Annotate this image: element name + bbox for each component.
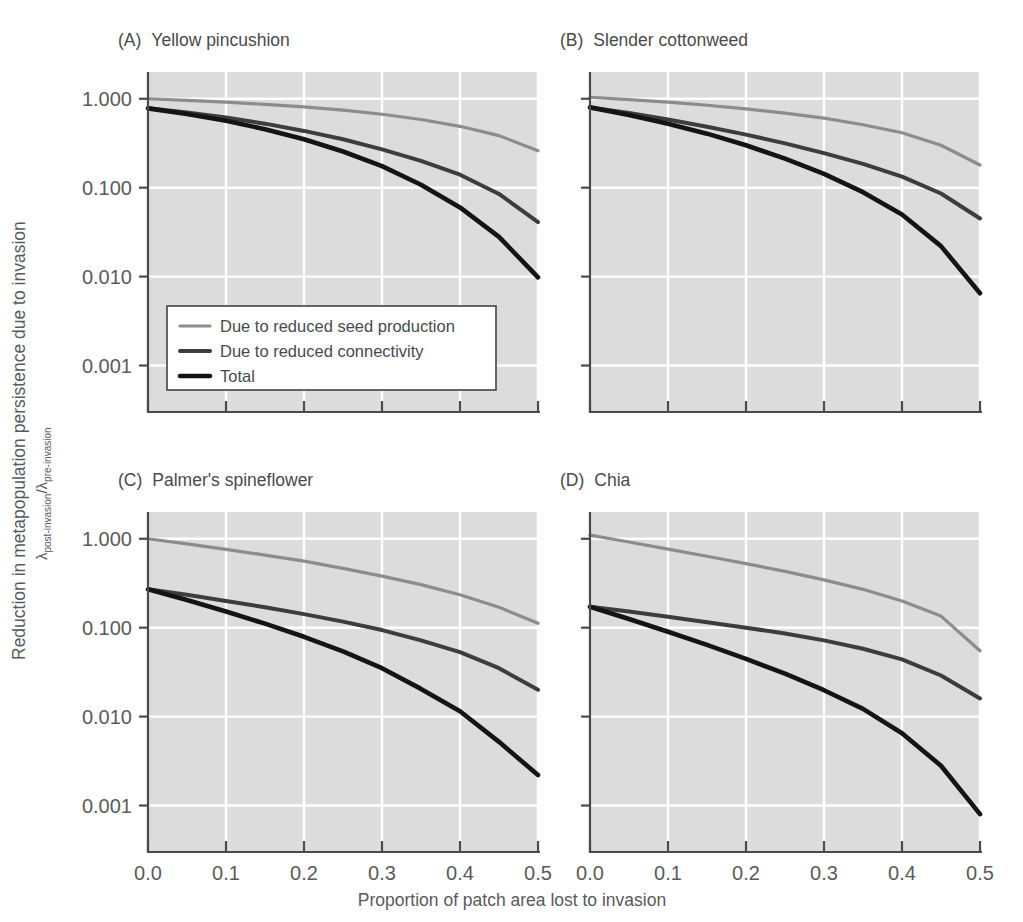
legend-label: Due to reduced connectivity <box>220 342 424 360</box>
x-tick-label: 0.3 <box>368 862 396 884</box>
legend-label: Due to reduced seed production <box>220 317 455 335</box>
x-tick-label: 0.0 <box>576 862 604 884</box>
panel-b: (B)Slender cottonweed <box>560 30 982 412</box>
plot-background <box>590 512 980 852</box>
figure-root: Reduction in metapopulation persistence … <box>0 0 1023 922</box>
y-axis-lambda-post: λpost-invasion/λpre-invasion <box>33 427 53 560</box>
plot-background <box>590 72 980 412</box>
x-tick-label: 0.2 <box>290 862 318 884</box>
x-axis-title: Proportion of patch area lost to invasio… <box>358 890 666 910</box>
x-tick-label: 0.1 <box>212 862 240 884</box>
x-tick-label: 0.1 <box>654 862 682 884</box>
x-tick-label: 0.2 <box>732 862 760 884</box>
x-tick-label: 0.0 <box>134 862 162 884</box>
y-tick-label: 0.001 <box>82 795 132 817</box>
panel-d: (D)Chia0.00.10.20.30.40.5 <box>560 470 994 884</box>
y-tick-label: 1.000 <box>82 528 132 550</box>
y-tick-label: 0.010 <box>82 706 132 728</box>
panel-title-a: (A)Yellow pincushion <box>118 30 290 50</box>
y-tick-label: 0.001 <box>82 355 132 377</box>
legend-label: Total <box>220 367 255 385</box>
plot-background <box>148 512 538 852</box>
x-tick-label: 0.4 <box>888 862 916 884</box>
x-tick-label: 0.5 <box>966 862 994 884</box>
x-tick-label: 0.3 <box>810 862 838 884</box>
x-tick-label: 0.4 <box>446 862 474 884</box>
panel-title-d: (D)Chia <box>560 470 631 490</box>
y-axis-title-line2: λpost-invasion/λpre-invasion <box>33 427 53 560</box>
y-tick-label: 0.100 <box>82 617 132 639</box>
x-tick-label: 0.5 <box>524 862 552 884</box>
panel-title-c: (C)Palmer's spineflower <box>118 470 313 490</box>
panel-c: (C)Palmer's spineflower1.0000.1000.0100.… <box>82 470 552 884</box>
y-axis-title: Reduction in metapopulation persistence … <box>9 221 53 660</box>
panel-title-b: (B)Slender cottonweed <box>560 30 748 50</box>
y-tick-label: 0.100 <box>82 177 132 199</box>
y-axis-title-line1: Reduction in metapopulation persistence … <box>9 221 29 660</box>
y-tick-label: 1.000 <box>82 88 132 110</box>
panel-group: (A)Yellow pincushion1.0000.1000.0100.001… <box>82 30 994 884</box>
legend: Due to reduced seed productionDue to red… <box>167 306 496 390</box>
y-tick-label: 0.010 <box>82 266 132 288</box>
